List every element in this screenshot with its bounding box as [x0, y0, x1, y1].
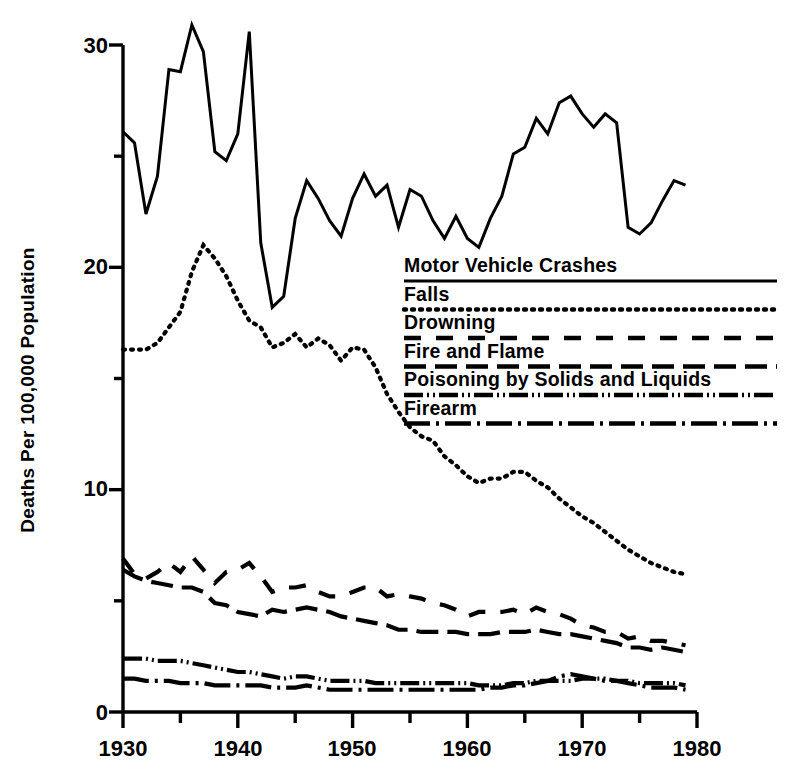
- x-tick-label-1960: 1960: [443, 736, 492, 761]
- y-tick-label-10: 10: [84, 476, 108, 501]
- y-axis-label: Deaths Per 100,000 Population: [17, 247, 38, 532]
- chart-background: [0, 0, 787, 782]
- y-tick-label-20: 20: [84, 254, 108, 279]
- legend-label-poisoning-by-solids-and-liquids: Poisoning by Solids and Liquids: [404, 368, 711, 390]
- x-tick-label-1950: 1950: [328, 736, 377, 761]
- legend-label-fire-and-flame: Fire and Flame: [404, 340, 544, 362]
- y-tick-label-30: 30: [84, 33, 108, 58]
- legend-label-drowning: Drowning: [404, 311, 496, 333]
- line-chart-plot: Deaths Per 100,000 Population 30 20 10 0…: [0, 0, 787, 782]
- y-tick-label-0: 0: [96, 700, 108, 725]
- legend-label-firearm: Firearm: [404, 397, 477, 419]
- legend-label-motor-vehicle-crashes: Motor Vehicle Crashes: [404, 254, 617, 276]
- chart-figure: Deaths Per 100,000 Population 30 20 10 0…: [0, 0, 787, 782]
- x-tick-label-1970: 1970: [558, 736, 607, 761]
- x-tick-label-1940: 1940: [214, 736, 263, 761]
- legend-label-falls: Falls: [404, 283, 449, 305]
- x-tick-label-1930: 1930: [99, 736, 148, 761]
- x-tick-label-1980: 1980: [673, 736, 722, 761]
